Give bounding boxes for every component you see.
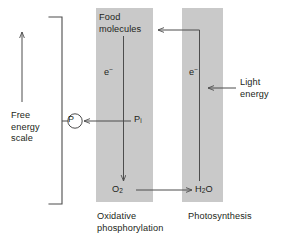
inorganic-phosphate-label: Pi: [134, 114, 142, 127]
free-energy-diagram: Food molecules e− e− Pi O2 H2O Light ene…: [0, 0, 284, 246]
electron-right-label: e−: [189, 64, 198, 78]
diagram-graphics-layer: [0, 0, 284, 246]
water-label: H2O: [195, 184, 213, 197]
inorganic-phosphate-subscript: i: [140, 117, 142, 124]
electron-left-label: e−: [104, 64, 113, 78]
oxygen-subscript: 2: [119, 187, 123, 194]
photosynthesis-caption: Photosynthesis: [188, 211, 252, 223]
light-energy-label: Light energy: [240, 77, 269, 100]
electron-left-charge: −: [109, 66, 113, 73]
free-energy-scale-label: Free energy scale: [11, 110, 40, 145]
electron-right-charge: −: [194, 66, 198, 73]
water-hydrogen-symbol: H: [195, 184, 202, 194]
water-oxygen-symbol: O: [206, 184, 213, 194]
photosynthesis-band: [182, 8, 223, 202]
high-energy-phosphate-letter: P: [68, 114, 74, 126]
oxidative-phosphorylation-caption: Oxidative phosphorylation: [97, 211, 163, 234]
oxidative-phosphorylation-band: [96, 8, 153, 202]
oxygen-label: O2: [112, 184, 123, 197]
food-molecules-label: Food molecules: [99, 12, 141, 35]
free-energy-bracket: [49, 17, 62, 204]
